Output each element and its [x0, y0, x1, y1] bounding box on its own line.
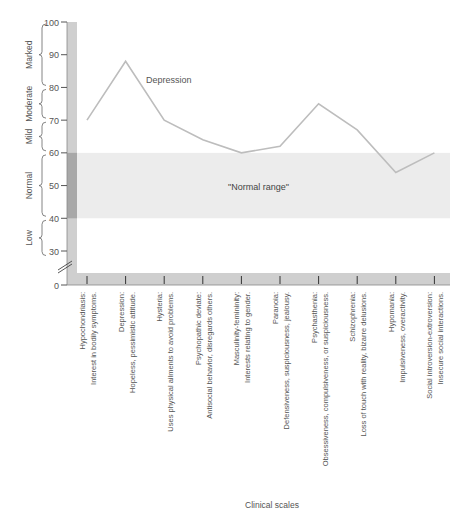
x-label-desc: Loss of touch with reality, bizarre delu… [359, 292, 368, 437]
y-tick-label: 40 [49, 214, 59, 224]
annotation-normal-range: "Normal range" [228, 182, 289, 192]
y-axis-bar-normal [67, 153, 77, 218]
brace-moderate [39, 89, 46, 118]
y-tick-label: 0 [54, 281, 59, 291]
brace-marked [39, 24, 46, 85]
brace-low [39, 220, 46, 255]
x-label-name: Hysteria: [155, 292, 164, 322]
y-tick-label: 90 [49, 50, 59, 60]
y-tick-label: 100 [44, 18, 59, 28]
x-label-name: Schizophrenia: [348, 292, 357, 342]
y-tick-label: 30 [49, 247, 59, 257]
x-label-name: Hypochondriasis: [78, 292, 87, 350]
band-label-moderate: Moderate [24, 86, 34, 122]
y-tick-label: 60 [49, 148, 59, 158]
y-tick-label: 70 [49, 116, 59, 126]
x-label-name: Psychopathic deviate: [194, 292, 203, 365]
mmpi-profile-chart: MarkedModerateMildNormalLow 030405060708… [0, 0, 469, 523]
y-tick-label: 80 [49, 83, 59, 93]
severity-bands: MarkedModerateMildNormalLow [24, 24, 46, 256]
x-label-desc: Interest in bodily symptoms. [89, 292, 98, 385]
x-label-name: Masculinity-femininity: [232, 292, 241, 365]
x-label-name: Depression: [117, 292, 126, 332]
x-label-desc: Obsessiveness, compulsiveness, or suspic… [321, 292, 330, 466]
x-tick-labels: Hypochondriasis:Interest in bodily sympt… [78, 292, 445, 466]
band-label-marked: Marked [24, 40, 34, 69]
x-axis-bar [67, 273, 450, 285]
x-label-desc: Uses physical ailments to avoid problems… [166, 292, 175, 432]
x-label-desc: Defensiveness, suspiciousness, jealousy. [282, 292, 291, 429]
x-label-desc: Hopeless, pessimistic attitude. [128, 292, 137, 393]
x-label-desc: Interests relating to gender. [243, 292, 252, 383]
x-label-name: Psychasthenia: [310, 292, 319, 343]
brace-mild [39, 122, 46, 151]
x-label-desc: Impulsiveness, overactivity. [398, 292, 407, 383]
x-axis-title: Clinical scales [245, 500, 299, 510]
brace-normal [39, 155, 46, 216]
band-label-mild: Mild [24, 128, 34, 144]
band-label-normal: Normal [24, 172, 34, 200]
x-label-desc: Insecure social interactions. [436, 292, 445, 385]
x-label-name: Hypomania: [387, 292, 396, 332]
band-label-low: Low [24, 229, 34, 245]
annotation-depression: Depression [146, 75, 192, 85]
x-label-name: Paranoia: [271, 292, 280, 324]
x-label-desc: Antisocial behavior, disregards others. [205, 292, 214, 419]
y-tick-label: 50 [49, 181, 59, 191]
x-label-name: Social introversion-extroversion: [425, 292, 434, 399]
